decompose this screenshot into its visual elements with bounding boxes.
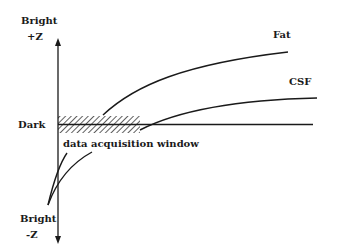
- bottom-label-bright: Bright: [20, 213, 57, 224]
- arrow-down-icon: [55, 236, 61, 244]
- window-label: data acquisition window: [63, 138, 199, 149]
- diagram-canvas: Bright +Z Dark Bright -Z Fat CSF data ac…: [0, 0, 339, 249]
- fat-label: Fat: [273, 29, 291, 40]
- dark-label: Dark: [18, 119, 46, 130]
- top-label-plus-z: +Z: [27, 31, 43, 42]
- csf-curve-lower: [48, 152, 92, 205]
- arrow-up-icon: [55, 38, 61, 46]
- top-label-bright: Bright: [21, 15, 58, 26]
- csf-label: CSF: [289, 76, 311, 87]
- bottom-label-minus-z: -Z: [26, 229, 37, 240]
- fat-curve: [103, 52, 288, 115]
